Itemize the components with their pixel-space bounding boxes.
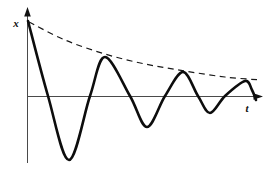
plot-canvas: x t: [0, 0, 279, 176]
vertical-axis-arrowhead: [24, 7, 31, 17]
vertical-axis-label: x: [12, 17, 19, 29]
damped-oscillation-figure: x t: [0, 0, 279, 176]
horizontal-axis-label: t: [245, 102, 249, 114]
decay-envelope-dashed-curve: [29, 22, 261, 80]
damped-oscillation-curve: [28, 21, 256, 160]
